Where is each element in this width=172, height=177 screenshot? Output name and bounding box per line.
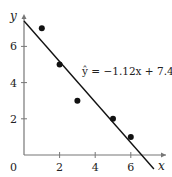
- data-point: [128, 134, 134, 140]
- fit-line: [24, 21, 154, 169]
- y-tick-label: 6: [10, 40, 17, 53]
- x-tick-label: 2: [56, 161, 63, 174]
- data-point: [57, 62, 63, 68]
- x-axis-label: x: [158, 159, 165, 173]
- y-axis-arrow-icon: [22, 14, 27, 19]
- x-tick-label: 4: [92, 161, 99, 174]
- data-point: [39, 25, 45, 31]
- y-tick-label: 4: [10, 77, 17, 90]
- x-axis-arrow-icon: [161, 153, 166, 158]
- y-tick-label: 2: [10, 113, 17, 126]
- axes: [22, 14, 167, 158]
- data-point: [74, 98, 80, 104]
- regression-line: [24, 21, 154, 169]
- data-point: [110, 116, 116, 122]
- axis-ticks: 246246: [10, 40, 134, 174]
- regression-equation: ŷ = −1.12x + 7.40: [81, 65, 172, 77]
- data-points: [39, 25, 134, 140]
- x-tick-label: 6: [127, 161, 134, 174]
- origin-label: 0: [10, 161, 17, 174]
- y-axis-label: y: [9, 9, 17, 23]
- scatter-chart: 246246 ŷ = −1.12x + 7.40 x y 0: [0, 0, 172, 177]
